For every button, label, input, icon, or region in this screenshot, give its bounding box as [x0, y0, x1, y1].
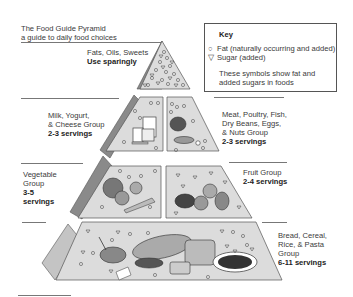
key-note-line1: These symbols show fat and: [219, 69, 315, 78]
milk-servings: 2-3 servings: [48, 129, 92, 138]
sugar-triangle-icon: ▽: [208, 53, 214, 62]
fat-circle-icon: ○: [208, 44, 213, 53]
vegetable-label-line1: Vegetable: [23, 170, 57, 179]
key-note-line2: added sugars in foods: [219, 78, 294, 87]
fruit-rule: [229, 162, 287, 163]
bread-label-line2: Rice, & Pasta: [278, 240, 324, 249]
fruit-label: Fruit Group: [243, 168, 281, 177]
fats-servings: Use sparingly: [87, 57, 137, 66]
bread-label-line3: Group: [278, 249, 299, 258]
meat-label-line1: Meat, Poultry, Fish,: [222, 110, 287, 119]
bread-left-rule: [22, 222, 46, 223]
fats-label: Fats, Oils, Sweets: [87, 48, 148, 57]
tier-bread-graphic: [42, 222, 282, 280]
meat-label-line2: Dry Beans, Eggs,: [222, 119, 281, 128]
key-legend: Key ○ Fat (naturally occurring and added…: [204, 23, 337, 92]
bread-right-rule: [262, 222, 287, 223]
bread-servings: 6-11 servings: [278, 258, 326, 267]
milk-label-line2: & Cheese Group: [48, 120, 105, 129]
key-heading: Key: [219, 30, 233, 39]
milk-label-line1: Milk, Yogurt,: [48, 111, 89, 120]
vegetable-servings-line1: 3-5: [23, 188, 34, 197]
vegetable-servings-line2: servings: [23, 197, 54, 206]
tier-milk-meat-graphic: [100, 95, 219, 158]
vegetable-rule: [21, 163, 83, 164]
tier-veg-fruit-graphic: [70, 156, 252, 219]
key-sugar-label: Sugar (added): [217, 53, 266, 62]
bread-label-line1: Bread, Cereal,: [278, 231, 327, 240]
key-fat-label: Fat (naturally occurring and added): [217, 44, 335, 53]
milk-rule: [21, 98, 119, 99]
vegetable-label-line2: Group: [23, 179, 44, 188]
fruit-servings: 2-4 servings: [243, 177, 287, 186]
meat-label-line3: & Nuts Group: [222, 128, 268, 137]
key-underline: [214, 97, 284, 98]
footer-rule: [18, 295, 71, 296]
meat-servings: 2-3 servings: [222, 137, 266, 146]
